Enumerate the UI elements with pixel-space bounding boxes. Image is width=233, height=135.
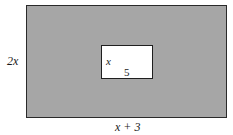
inner-height-label: x xyxy=(106,55,111,67)
outer-width-label: x + 3 xyxy=(115,121,140,133)
outer-height-label: 2x xyxy=(7,55,18,67)
inner-width-label: 5 xyxy=(124,66,130,78)
